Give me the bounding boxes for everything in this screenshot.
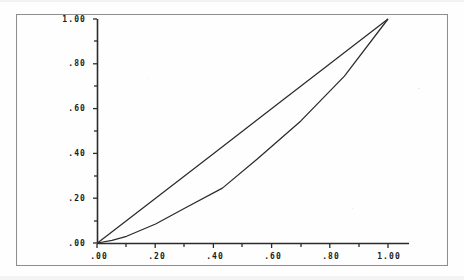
scan-artifact	[0, 276, 464, 280]
scan-artifact	[418, 88, 420, 89]
x-axis-ticks	[97, 244, 388, 248]
y-axis-ticks	[93, 19, 97, 243]
series-line-of-equality	[98, 19, 389, 243]
figure-canvas: 1.00 .80 .60 .40 .20 .00 .00 .20 .40 .60…	[0, 0, 464, 280]
scan-artifact	[352, 208, 353, 209]
plot-area	[0, 0, 464, 280]
scan-artifact	[148, 78, 149, 79]
scan-artifact	[0, 0, 464, 2]
